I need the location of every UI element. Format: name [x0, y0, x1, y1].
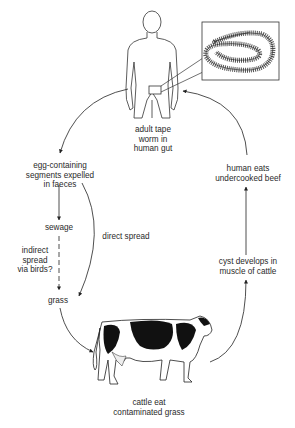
label-line: muscle of cattle: [208, 267, 288, 277]
arrow-direct-spread: [79, 183, 94, 296]
label-cattle-eat: cattle eat contaminated grass: [104, 398, 194, 417]
label-line: worm in: [130, 135, 176, 145]
label-cyst-develops: cyst develops in muscle of cattle: [208, 257, 288, 276]
label-direct-spread: direct spread: [96, 232, 156, 242]
label-line: via birds?: [14, 265, 56, 275]
label-line: indirect: [14, 246, 56, 256]
label-line: cyst develops in: [208, 257, 288, 267]
label-line: direct spread: [96, 232, 156, 242]
arrow-adult-to-segments: [60, 89, 128, 153]
label-human-eats: human eats undercooked beef: [208, 164, 288, 183]
label-line: segments expelled: [12, 171, 108, 181]
label-line: spread: [14, 256, 56, 266]
label-line: human gut: [130, 144, 176, 154]
label-line: human eats: [208, 164, 288, 174]
arrow-cattle-to-cyst: [210, 280, 246, 362]
human-figure-icon: [126, 11, 178, 118]
tapeworm-inset-icon: [202, 22, 279, 80]
label-indirect-spread: indirect spread via birds?: [14, 246, 56, 275]
label-grass: grass: [40, 296, 76, 306]
label-line: undercooked beef: [208, 174, 288, 184]
label-line: cattle eat: [104, 398, 194, 408]
label-line: adult tape: [130, 125, 176, 135]
label-segments-expelled: egg-containing segments expelled in faec…: [12, 161, 108, 190]
label-line: contaminated grass: [104, 408, 194, 418]
label-sewage: sewage: [38, 223, 80, 233]
cow-icon: [93, 316, 212, 384]
callout-lines: [161, 58, 203, 92]
arrow-eats-to-adult: [183, 91, 247, 155]
life-cycle-diagram: [0, 0, 295, 428]
label-line: sewage: [38, 223, 80, 233]
arrow-grass-to-cattle: [60, 308, 93, 352]
label-adult-tapeworm: adult tape worm in human gut: [130, 125, 176, 154]
label-line: in faeces: [12, 180, 108, 190]
label-line: grass: [40, 296, 76, 306]
label-line: egg-containing: [12, 161, 108, 171]
